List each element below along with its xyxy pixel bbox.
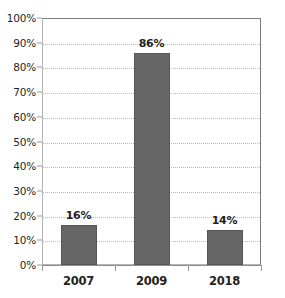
y-axis-tick-label: 70% — [0, 86, 36, 98]
bar-slot: 16% — [42, 18, 115, 265]
bar[interactable] — [207, 230, 243, 265]
x-axis-category-label: 2009 — [136, 274, 167, 288]
x-axis-tick-mark — [115, 265, 116, 271]
x-axis-tick-mark — [261, 265, 262, 271]
y-axis-tick-label: 20% — [0, 210, 36, 222]
bars-layer: 16%86%14% — [42, 18, 261, 265]
y-axis-tick-label: 40% — [0, 160, 36, 172]
bar-chart: 100%90%80%70%60%50%40%30%20%10%0% 16%86%… — [0, 0, 285, 298]
bar-slot: 86% — [115, 18, 188, 265]
x-axis-tick-mark — [42, 265, 43, 271]
y-axis-tick-label: 0% — [0, 259, 36, 271]
bar[interactable] — [61, 225, 97, 265]
x-axis-category-label: 2018 — [209, 274, 240, 288]
y-axis-tick-label: 80% — [0, 61, 36, 73]
bar-value-label: 16% — [66, 209, 92, 222]
bar-value-label: 86% — [139, 37, 165, 50]
x-axis-tick-mark — [188, 265, 189, 271]
y-axis-tick-label: 60% — [0, 111, 36, 123]
y-axis-tick-label: 50% — [0, 136, 36, 148]
y-axis-tick-label: 10% — [0, 234, 36, 246]
x-axis-line — [42, 265, 262, 266]
bar-slot: 14% — [188, 18, 261, 265]
bar-value-label: 14% — [212, 214, 238, 227]
y-axis-tick-label: 100% — [0, 12, 36, 24]
y-axis-tick-label: 90% — [0, 37, 36, 49]
bar[interactable] — [134, 53, 170, 265]
x-axis-category-label: 2007 — [63, 274, 94, 288]
y-axis-tick-label: 30% — [0, 185, 36, 197]
